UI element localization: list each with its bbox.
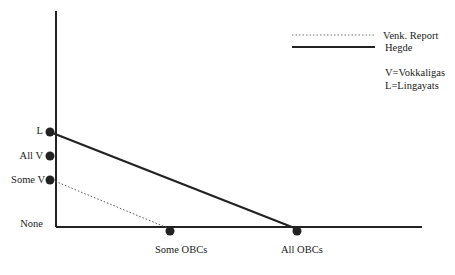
marker-some-v (46, 176, 55, 185)
y-tick-l: L (37, 125, 43, 137)
y-tick-none: None (20, 218, 43, 230)
venk-report-line (52, 180, 170, 229)
y-tick-all-v: All V (20, 150, 43, 162)
y-tick-some-v: Some V (11, 174, 45, 186)
note-lingayats: L=Lingayats (385, 80, 439, 92)
hegde-line (50, 132, 297, 229)
x-tick-all-obcs: All OBCs (281, 244, 323, 256)
marker-all-obcs (293, 227, 302, 236)
x-tick-some-obcs: Some OBCs (155, 244, 207, 256)
marker-some-obcs (166, 227, 175, 236)
marker-l (46, 128, 55, 137)
marker-all-v (46, 152, 55, 161)
legend-label-venk: Venk. Report (383, 30, 438, 42)
legend-label-hegde: Hegde (385, 42, 412, 54)
note-vokkaligas: V=Vokkaligas (385, 67, 445, 79)
